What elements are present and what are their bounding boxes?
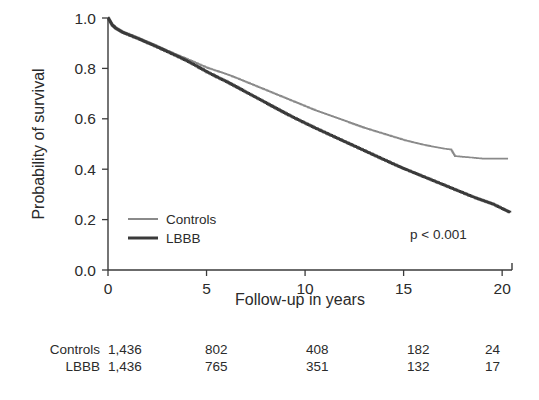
- y-tick-label: 0.0: [74, 262, 96, 279]
- x-tick-label: 15: [395, 280, 412, 297]
- chart-canvas: 0.00.20.40.60.81.0 05101520 Follow-up in…: [0, 0, 539, 400]
- y-tick-group: 0.00.20.40.60.81.0: [74, 10, 108, 279]
- y-tick-label: 0.2: [74, 211, 96, 228]
- series-line-controls: [108, 18, 508, 159]
- y-axis-title: Probability of survival: [30, 68, 47, 219]
- x-axis-title: Follow-up in years: [235, 291, 365, 308]
- x-tick-label: 20: [494, 280, 512, 297]
- risk-cell-controls-0: 1,436: [108, 342, 142, 357]
- risk-cell-lbbb-0: 1,436: [108, 359, 142, 374]
- y-tick-label: 0.8: [74, 60, 96, 77]
- legend-label-lbbb: LBBB: [166, 231, 201, 246]
- survival-curve-figure: 0.00.20.40.60.81.0 05101520 Follow-up in…: [0, 0, 539, 400]
- risk-cell-controls-10: 408: [306, 342, 329, 357]
- y-tick-label: 0.6: [74, 110, 96, 127]
- y-tick-label: 1.0: [74, 10, 96, 27]
- x-tick-label: 0: [104, 280, 113, 297]
- risk-table: Controls 1,436 802 408 182 24 LBBB 1,436…: [50, 342, 501, 374]
- risk-row-label-lbbb: LBBB: [65, 359, 100, 374]
- risk-cell-lbbb-20: 17: [485, 359, 500, 374]
- risk-row-label-controls: Controls: [50, 342, 101, 357]
- series-group: [108, 18, 510, 213]
- risk-cell-controls-15: 182: [407, 342, 430, 357]
- risk-cell-controls-20: 24: [485, 342, 501, 357]
- legend-label-controls: Controls: [166, 212, 217, 227]
- risk-cell-lbbb-10: 351: [306, 359, 329, 374]
- risk-cell-controls-5: 802: [205, 342, 228, 357]
- x-tick-label: 5: [202, 280, 211, 297]
- series-line-lbbb: [108, 18, 510, 213]
- legend: Controls LBBB: [128, 212, 217, 246]
- pvalue-annotation: p < 0.001: [410, 227, 467, 242]
- risk-cell-lbbb-5: 765: [205, 359, 228, 374]
- y-tick-label: 0.4: [74, 161, 96, 178]
- risk-cell-lbbb-15: 132: [407, 359, 430, 374]
